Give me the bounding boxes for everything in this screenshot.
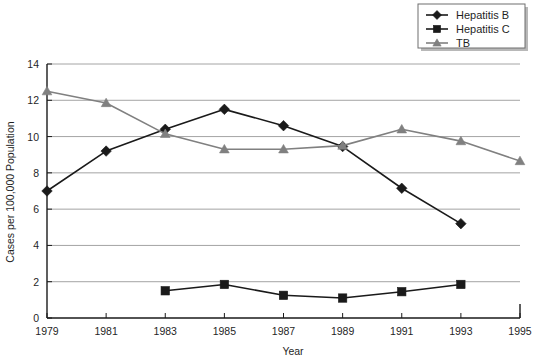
y-tick-label: 4 bbox=[33, 239, 39, 251]
data-point-marker bbox=[42, 186, 53, 197]
x-tick-label: 1991 bbox=[390, 325, 414, 337]
legend-item-label: Hepatitis B bbox=[456, 9, 509, 21]
data-point-marker bbox=[433, 25, 440, 32]
series-hepatitis-c bbox=[161, 280, 465, 302]
data-point-marker bbox=[457, 280, 465, 288]
y-tick-label: 8 bbox=[33, 167, 39, 179]
data-point-marker bbox=[278, 120, 289, 131]
gridlines-group bbox=[47, 64, 520, 282]
series-line bbox=[165, 284, 461, 298]
y-tick-label: 12 bbox=[27, 94, 39, 106]
y-tick-labels-group: 02468101214 bbox=[27, 58, 39, 324]
x-tick-labels-group: 197919811983198519871989199119931995 bbox=[35, 325, 532, 337]
legend-item-label: TB bbox=[456, 37, 470, 49]
x-axis-title: Year bbox=[282, 345, 304, 357]
data-point-marker bbox=[398, 287, 406, 295]
y-axis-title: Cases per 100,000 Population bbox=[4, 121, 16, 262]
chart-legend: Hepatitis BHepatitis CTB bbox=[418, 4, 528, 51]
data-point-marker bbox=[220, 280, 228, 288]
series-hepatitis-b bbox=[42, 104, 466, 229]
data-point-marker bbox=[161, 287, 169, 295]
data-point-marker bbox=[397, 183, 408, 194]
series-line bbox=[47, 109, 461, 223]
legend-item-label: Hepatitis C bbox=[456, 23, 510, 35]
x-tick-label: 1995 bbox=[508, 325, 532, 337]
x-tick-label: 1981 bbox=[94, 325, 118, 337]
data-point-marker bbox=[456, 218, 467, 229]
x-tick-label: 1987 bbox=[272, 325, 296, 337]
axis-lines-group bbox=[47, 64, 520, 318]
x-tick-label: 1993 bbox=[449, 325, 473, 337]
data-point-marker bbox=[397, 124, 407, 132]
x-tick-label: 1985 bbox=[213, 325, 237, 337]
data-point-marker bbox=[338, 294, 346, 302]
x-tick-label: 1983 bbox=[154, 325, 178, 337]
x-tick-label: 1979 bbox=[35, 325, 59, 337]
y-tick-label: 6 bbox=[33, 203, 39, 215]
chart-container: 197919811983198519871989199119931995 024… bbox=[0, 0, 542, 363]
x-tick-marks-group bbox=[47, 313, 520, 318]
y-tick-label: 2 bbox=[33, 276, 39, 288]
y-tick-label: 14 bbox=[27, 58, 39, 70]
data-series-group bbox=[42, 86, 525, 302]
data-point-marker bbox=[101, 146, 112, 157]
data-point-marker bbox=[42, 86, 52, 94]
y-tick-label: 10 bbox=[27, 131, 39, 143]
data-point-marker bbox=[219, 104, 230, 115]
data-point-marker bbox=[279, 291, 287, 299]
y-tick-label: 0 bbox=[33, 312, 39, 324]
x-tick-label: 1989 bbox=[331, 325, 355, 337]
line-chart: 197919811983198519871989199119931995 024… bbox=[0, 0, 542, 363]
